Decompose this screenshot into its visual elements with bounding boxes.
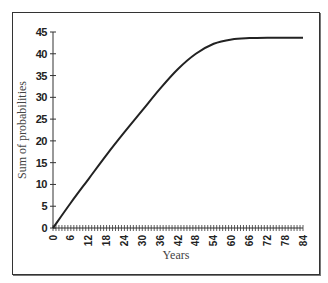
- y-tick-label: 45: [36, 26, 48, 38]
- y-tick-label: 40: [36, 48, 48, 60]
- x-tick-label: 36: [155, 235, 166, 247]
- x-tick-label: 48: [190, 235, 201, 247]
- x-tick-label: 78: [280, 235, 291, 247]
- x-tick-label: 12: [83, 235, 94, 247]
- x-tick-label: 6: [65, 235, 76, 241]
- x-tick-label: 84: [298, 235, 309, 247]
- x-tick-label: 60: [226, 235, 237, 247]
- series-line: [53, 38, 303, 228]
- x-tick-label: 30: [137, 235, 148, 247]
- y-tick-label: 25: [36, 113, 48, 125]
- x-axis: 0612182430364248546066727884: [48, 225, 309, 246]
- line-chart: 051015202530354045 061218243036424854606…: [0, 0, 328, 283]
- x-tick-label: 0: [48, 235, 59, 241]
- x-tick-label: 54: [208, 235, 219, 247]
- y-axis: 051015202530354045: [36, 26, 56, 234]
- y-axis-title: Sum of probabilities: [15, 81, 29, 179]
- y-tick-label: 15: [36, 157, 48, 169]
- y-tick-label: 30: [36, 91, 48, 103]
- x-tick-label: 42: [173, 235, 184, 247]
- y-tick-label: 5: [41, 200, 47, 212]
- y-tick-label: 20: [36, 135, 48, 147]
- x-tick-label: 72: [262, 235, 273, 247]
- y-tick-label: 10: [36, 178, 48, 190]
- x-tick-label: 66: [244, 235, 255, 247]
- x-tick-label: 24: [119, 235, 130, 247]
- x-tick-label: 18: [101, 235, 112, 247]
- y-tick-label: 35: [36, 70, 48, 82]
- x-axis-title: Years: [163, 248, 190, 262]
- y-tick-label: 0: [41, 222, 47, 234]
